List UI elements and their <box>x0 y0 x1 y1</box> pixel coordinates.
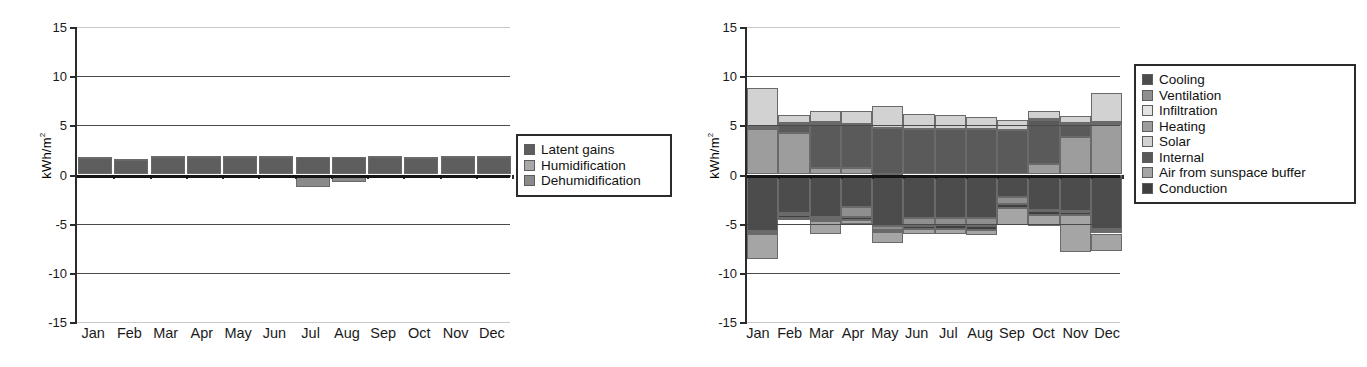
legend-item-label: Dehumidification <box>541 174 641 188</box>
bar-segment <box>1060 125 1091 137</box>
bar-segment <box>778 133 809 175</box>
bar-segment <box>477 156 511 158</box>
bar-segment <box>1091 175 1122 230</box>
legend-right[interactable]: CoolingVentilationInfiltrationHeatingSol… <box>1134 64 1356 204</box>
y-axis-tick-label: -10 <box>718 265 737 280</box>
legend-item[interactable]: Infiltration <box>1142 104 1346 118</box>
x-axis-tick-label: May <box>869 325 901 341</box>
bar-segment <box>747 175 778 232</box>
gridline <box>747 76 1120 77</box>
x-axis-tick-label: Jan <box>75 325 111 341</box>
x-axis-tick-label: May <box>220 325 256 341</box>
gridline <box>747 27 1120 28</box>
bar-segment <box>935 129 966 174</box>
x-axis-tick-label: Jul <box>293 325 329 341</box>
bar-segment <box>903 175 934 219</box>
bar-segment <box>778 175 809 214</box>
x-axis-tick-label: Oct <box>1028 325 1060 341</box>
y-axis-tick-label: 15 <box>723 20 737 35</box>
legend-left[interactable]: Latent gainsHumidificationDehumidificati… <box>516 134 672 197</box>
legend-item[interactable]: Heating <box>1142 120 1346 134</box>
x-axis-tick-label: Dec <box>474 325 510 341</box>
bar-segment <box>872 128 903 173</box>
gridline <box>77 76 510 77</box>
gridline <box>77 27 510 28</box>
bar-segment <box>1091 122 1122 124</box>
y-axis-tick <box>740 125 747 127</box>
bar-segment <box>810 168 841 175</box>
bar-segment <box>1060 175 1091 211</box>
zero-line <box>747 175 1120 178</box>
bar-segment <box>368 157 402 175</box>
bar-segment <box>966 129 997 174</box>
x-axis-tick-label: Nov <box>1060 325 1092 341</box>
legend-item-label: Heating <box>1159 120 1206 134</box>
gridline <box>77 224 510 225</box>
legend-item-label: Latent gains <box>541 143 615 157</box>
legend-item[interactable]: Ventilation <box>1142 89 1346 103</box>
y-axis-tick <box>70 224 77 226</box>
bar-segment <box>1028 111 1059 119</box>
bar-segment <box>259 157 293 175</box>
bar-segment <box>477 157 511 175</box>
bar-segment <box>78 157 112 174</box>
y-axis-tick-label: -15 <box>48 315 67 330</box>
x-axis-tick-label: Aug <box>329 325 365 341</box>
legend-item-label: Humidification <box>541 159 626 173</box>
bar-segment <box>114 159 148 174</box>
bar-segment <box>223 156 257 158</box>
bar-segment <box>997 175 1028 197</box>
y-axis-label-right-text: kWh/m <box>707 137 722 178</box>
bar-segment <box>1028 119 1059 121</box>
legend-item[interactable]: Cooling <box>1142 73 1346 87</box>
legend-swatch-icon <box>1142 105 1153 116</box>
legend-item-label: Air from sunspace buffer <box>1159 166 1306 180</box>
x-axis-tick-label: Jan <box>742 325 774 341</box>
y-axis-label-left-text: kWh/m <box>39 137 54 178</box>
bar-segment <box>997 130 1028 175</box>
y-axis-tick <box>740 273 747 275</box>
bar-segment <box>966 117 997 129</box>
bar-segment <box>966 230 997 235</box>
y-axis-tick-label: -10 <box>48 265 67 280</box>
bar-segment <box>368 156 402 158</box>
y-axis-tick <box>70 175 77 177</box>
x-axis-labels-left: JanFebMarAprMayJunJulAugSepOctNovDec <box>75 325 510 341</box>
legend-swatch-icon <box>524 144 535 155</box>
x-axis-tick-label: Oct <box>401 325 437 341</box>
y-axis-label-right-exponent: 2 <box>706 133 715 138</box>
x-axis-tick-label: Jun <box>901 325 933 341</box>
y-axis-tick <box>70 125 77 127</box>
bar-segment <box>187 157 221 175</box>
bar-segment <box>841 124 872 168</box>
bar-segment <box>332 157 366 175</box>
bar-segment <box>810 122 841 124</box>
bar-segment <box>810 124 841 168</box>
legend-item[interactable]: Latent gains <box>524 143 662 157</box>
plot-area-right: 151050-5-10-15 <box>745 27 1120 322</box>
x-axis-tick-label: Feb <box>774 325 806 341</box>
bar-segment <box>810 111 841 122</box>
bar-segment <box>151 157 185 175</box>
legend-item[interactable]: Conduction <box>1142 182 1346 196</box>
legend-item[interactable]: Air from sunspace buffer <box>1142 166 1346 180</box>
legend-item[interactable]: Humidification <box>524 159 662 173</box>
latent-loads-chart: kWh/m2 151050-5-10-15 JanFebMarAprMayJun… <box>0 0 690 367</box>
bar-segment <box>747 234 778 259</box>
y-axis-tick <box>70 273 77 275</box>
bar-segment <box>966 218 997 226</box>
legend-item-label: Internal <box>1159 151 1204 165</box>
bar-segment <box>404 157 438 174</box>
gridline <box>77 125 510 126</box>
bar-segment <box>747 127 778 129</box>
legend-item-label: Conduction <box>1159 182 1227 196</box>
x-axis-tick-label: Nov <box>438 325 474 341</box>
x-axis-tick-label: Feb <box>111 325 147 341</box>
legend-item[interactable]: Dehumidification <box>524 174 662 188</box>
legend-item-label: Ventilation <box>1159 89 1221 103</box>
y-axis-label-left: kWh/m2 <box>38 96 53 216</box>
legend-item[interactable]: Solar <box>1142 135 1346 149</box>
x-axis-tick <box>1122 175 1124 179</box>
figure-energy-charts: kWh/m2 151050-5-10-15 JanFebMarAprMayJun… <box>0 0 1367 367</box>
legend-item[interactable]: Internal <box>1142 151 1346 165</box>
